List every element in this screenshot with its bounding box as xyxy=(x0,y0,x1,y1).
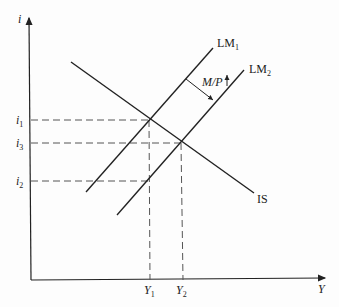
i2-label: i2 xyxy=(16,175,23,190)
shift-annotation-label: M/P xyxy=(202,76,223,88)
y-axis-label: i xyxy=(18,13,21,25)
y1-label: Y1 xyxy=(144,284,155,299)
y1-guide xyxy=(149,120,150,280)
x-axis xyxy=(31,278,325,280)
y2-label: Y2 xyxy=(176,284,187,299)
y-axis xyxy=(29,18,31,280)
diagram-graphics xyxy=(0,0,339,307)
y2-guide xyxy=(181,143,183,280)
is-lm-diagram: i Y LM1 LM2 IS M/P i1 i3 i2 Y1 Y2 xyxy=(0,0,339,307)
i1-label: i1 xyxy=(16,114,23,129)
lm2-label: LM2 xyxy=(249,63,271,78)
is-label: IS xyxy=(257,193,268,205)
lm1-label: LM1 xyxy=(217,37,239,52)
x-axis-label: Y xyxy=(318,283,325,295)
i3-label: i3 xyxy=(16,137,23,152)
guide-lines xyxy=(31,120,183,280)
